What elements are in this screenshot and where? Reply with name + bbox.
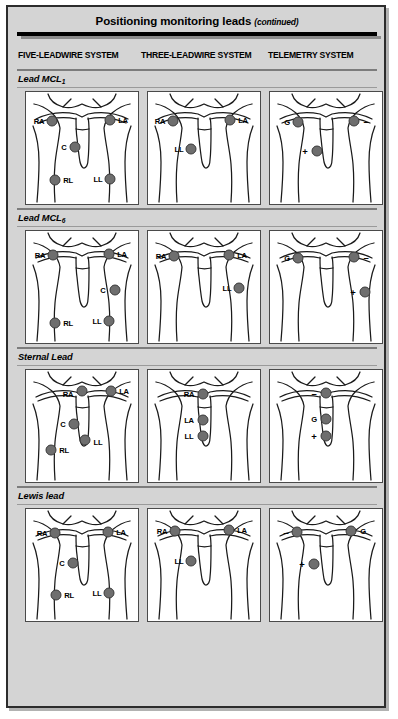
torso-illustration: [148, 370, 260, 482]
lead-sections: Lead MCL1 RALACRLLL: [17, 69, 377, 625]
electrode-LA: [225, 115, 236, 126]
electrode-neg: [321, 388, 332, 399]
diagram-lead-mcl1-five-leadwire: RALACRLLL: [25, 91, 139, 205]
electrode-LA: [105, 115, 116, 126]
electrode-neg: [292, 527, 303, 538]
electrode-label: RL: [59, 446, 69, 455]
diagram-row-lewis-lead: RALACRLLL RALALL: [17, 508, 377, 625]
electrode-C: [110, 285, 121, 296]
electrode-label: RA: [35, 251, 46, 260]
section-label-underline: [17, 365, 377, 366]
diagram-row-lead-mcl6: RALACRLLL RALALL: [17, 230, 377, 347]
section-label-subscript: 1: [62, 78, 66, 85]
electrode-RA: [48, 250, 59, 261]
lead-section-lewis-lead: Lewis lead RALACRLLL: [17, 486, 377, 625]
electrode-RA: [169, 251, 180, 262]
electrode-label: RL: [63, 319, 73, 328]
electrode-label: LA: [117, 250, 127, 259]
electrode-label: LA: [238, 116, 248, 125]
page-title: Positioning monitoring leads (continued): [17, 15, 377, 27]
diagram-lead-mcl1-telemetry: G–+: [269, 91, 383, 205]
electrode-label: LL: [175, 145, 184, 154]
electrode-RL: [51, 590, 62, 601]
electrode-label: RL: [63, 176, 73, 185]
section-label-underline: [17, 87, 377, 88]
electrode-LA: [104, 249, 115, 260]
electrode-LL: [105, 174, 116, 185]
diagram-sternal-lead-five-leadwire: RALACLLRL: [25, 369, 139, 483]
diagram-row-lead-mcl1: RALACRLLL RALALL: [17, 91, 377, 208]
column-headers: FIVE-LEADWIRE SYSTEM THREE-LEADWIRE SYST…: [17, 47, 377, 69]
electrode-RL: [50, 318, 61, 329]
electrode-RA: [77, 386, 88, 397]
section-label-text: Lead MCL: [18, 213, 62, 223]
electrode-label: LA: [118, 116, 128, 125]
electrode-label: –: [363, 116, 368, 127]
electrode-LL: [186, 556, 197, 567]
electrode-LA: [106, 386, 117, 397]
electrode-C: [68, 558, 79, 569]
electrode-label: LA: [237, 526, 247, 535]
title-rule: [17, 32, 377, 36]
electrode-G: [293, 117, 304, 128]
title-rule-shadow: [21, 36, 381, 39]
section-label-underline: [17, 226, 377, 227]
electrode-label: G: [311, 415, 317, 424]
diagram-lewis-lead-telemetry: –G+: [269, 508, 383, 622]
electrode-RL: [50, 175, 61, 186]
electrode-LA: [224, 250, 235, 261]
electrode-RA: [168, 116, 179, 127]
electrode-G: [293, 253, 304, 264]
electrode-label: RL: [64, 591, 74, 600]
electrode-LL: [104, 588, 115, 599]
diagram-lewis-lead-five-leadwire: RALACRLLL: [25, 508, 139, 622]
electrode-LL: [186, 144, 197, 155]
section-label-lead-mcl6: Lead MCL6: [17, 210, 377, 226]
electrode-pos: [309, 559, 320, 570]
page-title-continued: (continued): [254, 17, 298, 27]
section-label-sternal-lead: Sternal Lead: [17, 349, 377, 365]
electrode-label: +: [302, 146, 307, 157]
section-label-subscript: 6: [62, 217, 66, 224]
electrode-label: +: [350, 287, 355, 298]
diagram-lewis-lead-three-leadwire: RALALL: [147, 508, 261, 622]
section-label-lead-mcl1: Lead MCL1: [17, 71, 377, 87]
electrode-C: [70, 142, 81, 153]
electrode-label: C: [60, 420, 65, 429]
electrode-LA: [198, 415, 209, 426]
electrode-label: RA: [184, 390, 195, 399]
electrode-label: +: [311, 431, 316, 442]
column-header-five-leadwire: FIVE-LEADWIRE SYSTEM: [18, 50, 119, 60]
electrode-label: G: [360, 527, 366, 536]
electrode-RA: [198, 389, 209, 400]
lead-section-sternal-lead: Sternal Lead RALACLLRL: [17, 347, 377, 486]
electrode-C: [69, 419, 80, 430]
electrode-LL: [198, 431, 209, 442]
diagram-lead-mcl1-three-leadwire: RALALL: [147, 91, 261, 205]
torso-illustration: [148, 92, 260, 204]
electrode-pos: [360, 287, 371, 298]
torso-illustration: [26, 509, 138, 621]
torso-illustration: [270, 92, 382, 204]
electrode-LL: [80, 435, 91, 446]
electrode-LA: [103, 527, 114, 538]
lead-section-lead-mcl1: Lead MCL1 RALACRLLL: [17, 69, 377, 208]
electrode-label: G: [284, 254, 290, 263]
diagram-lead-mcl6-three-leadwire: RALALL: [147, 230, 261, 344]
electrode-label: –: [311, 388, 316, 399]
electrode-pos: [312, 146, 323, 157]
electrode-label: –: [363, 252, 368, 263]
electrode-label: LL: [93, 589, 102, 598]
section-label-text: Lewis lead: [18, 491, 64, 501]
diagram-sternal-lead-three-leadwire: RALALL: [147, 369, 261, 483]
torso-illustration: [26, 92, 138, 204]
electrode-label: C: [100, 286, 105, 295]
electrode-LL: [234, 283, 245, 294]
section-label-text: Sternal Lead: [18, 352, 73, 362]
electrode-label: LA: [184, 416, 194, 425]
electrode-label: RA: [34, 117, 45, 126]
electrode-RA: [47, 116, 58, 127]
electrode-label: –: [283, 527, 288, 538]
electrode-label: +: [299, 559, 304, 570]
electrode-RA: [170, 526, 181, 537]
